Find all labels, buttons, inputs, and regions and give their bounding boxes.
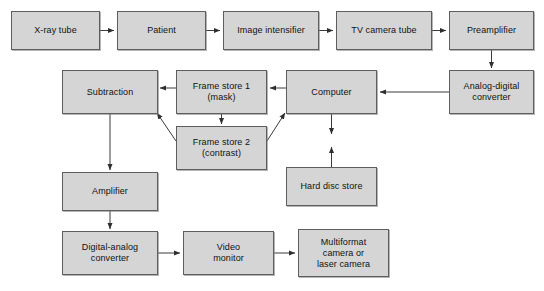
node-multiformat-camera[interactable]: Multiformat camera or laser camera [298, 229, 389, 277]
node-label: Digital-analog converter [80, 242, 140, 264]
node-label: Amplifier [90, 186, 130, 197]
node-label: Subtraction [85, 87, 136, 98]
node-subtraction[interactable]: Subtraction [62, 70, 158, 114]
node-label: Frame store 1 (mask) [191, 81, 252, 103]
node-frame-store-2[interactable]: Frame store 2 (contrast) [176, 126, 267, 170]
node-analog-digital-converter[interactable]: Analog-digital converter [449, 70, 534, 114]
flowchart-canvas: X-ray tube Patient Image intensifier TV … [0, 0, 544, 291]
node-digital-analog-converter[interactable]: Digital-analog converter [62, 231, 158, 275]
node-amplifier[interactable]: Amplifier [62, 172, 158, 211]
node-hard-disc-store[interactable]: Hard disc store [286, 167, 377, 206]
node-xray-tube[interactable]: X-ray tube [11, 11, 100, 50]
node-tv-camera-tube[interactable]: TV camera tube [336, 11, 432, 50]
node-patient[interactable]: Patient [117, 11, 206, 50]
node-label: Multiformat camera or laser camera [315, 237, 372, 270]
node-label: Computer [309, 87, 353, 98]
node-computer[interactable]: Computer [286, 70, 377, 114]
node-label: Preamplifier [465, 25, 518, 36]
node-label: Analog-digital converter [462, 81, 522, 103]
connector-framestore2-to-computer [267, 113, 285, 141]
node-label: Hard disc store [298, 181, 364, 192]
node-label: X-ray tube [32, 25, 79, 36]
node-video-monitor[interactable]: Video monitor [183, 231, 274, 275]
node-preamplifier[interactable]: Preamplifier [449, 11, 534, 50]
node-label: Video monitor [211, 242, 246, 264]
connector-framestore2-to-subtraction [157, 113, 176, 141]
node-label: Image intensifier [235, 25, 307, 36]
node-frame-store-1[interactable]: Frame store 1 (mask) [176, 70, 267, 114]
node-label: TV camera tube [349, 25, 418, 36]
node-label: Patient [145, 25, 178, 36]
node-image-intensifier[interactable]: Image intensifier [223, 11, 319, 50]
node-label: Frame store 2 (contrast) [191, 137, 252, 159]
